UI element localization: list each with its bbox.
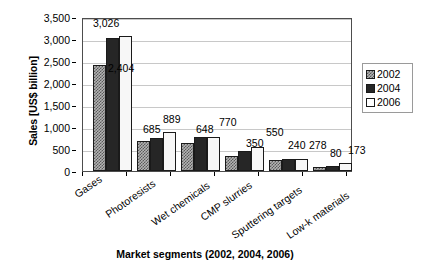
y-tick-label-1000: 1,000	[44, 123, 70, 133]
bar-low-k-materials-2004[interactable]	[326, 166, 339, 171]
bar-group-wet-chemicals	[179, 19, 223, 171]
data-label-photoresists-2006: 889	[163, 114, 181, 125]
y-tick-mark-1500	[72, 106, 76, 107]
bar-cmp-slurries-2002[interactable]	[225, 156, 238, 171]
x-axis-title: Market segments (2002, 2004, 2006)	[40, 248, 370, 260]
y-tick-label-2500: 2,500	[44, 57, 70, 67]
bar-group-photoresists	[135, 19, 179, 171]
data-label-low-k-materials-2006: 173	[348, 145, 366, 156]
y-tick-label-3000: 3,000	[44, 35, 70, 45]
data-label-photoresists-2002: 685	[143, 124, 161, 135]
data-label-low-k-materials-2002: 80	[330, 148, 342, 159]
y-tick-label-2000: 2,000	[44, 79, 70, 89]
data-label-gases-2004: 3,026	[93, 18, 119, 29]
bar-wet-chemicals-2004[interactable]	[194, 137, 207, 171]
y-tick-label-0: 0	[64, 167, 70, 177]
x-label-photoresists: Photoresists	[104, 178, 158, 220]
bar-gases-2002[interactable]	[93, 65, 106, 171]
data-label-gases-2002: 2,404	[108, 63, 134, 74]
legend: 2002 2004 2006	[362, 63, 413, 113]
legend-swatch-2002-icon	[366, 70, 375, 79]
x-tick-mark-4	[258, 172, 259, 176]
x-tick-mark-6	[346, 172, 347, 176]
data-label-cmp-slurries-2006: 550	[266, 127, 284, 138]
data-label-sputtering-targets-2002: 240	[288, 140, 306, 151]
bar-sputtering-targets-2006[interactable]	[295, 159, 308, 171]
x-tick-mark-3	[214, 172, 215, 176]
x-tick-mark-5	[302, 172, 303, 176]
bar-wet-chemicals-2006[interactable]	[207, 137, 220, 171]
y-tick-mark-2000	[72, 84, 76, 85]
y-tick-label-500: 500	[52, 145, 70, 155]
y-tick-mark-3000	[72, 40, 76, 41]
bar-group-gases	[91, 19, 135, 171]
x-tick-mark-1	[126, 172, 127, 176]
y-axis-ticks: 0 500 1,000 1,500 2,000 2,500 3,000 3,50…	[18, 18, 76, 172]
y-tick-mark-3500	[72, 18, 76, 19]
y-tick-mark-1000	[72, 128, 76, 129]
legend-label-2002: 2002	[377, 69, 400, 80]
bar-photoresists-2002[interactable]	[137, 141, 150, 171]
bar-photoresists-2006[interactable]	[163, 132, 176, 171]
legend-label-2006: 2006	[377, 97, 400, 108]
legend-label-2004: 2004	[377, 83, 400, 94]
bar-sputtering-targets-2004[interactable]	[282, 159, 295, 171]
bar-low-k-materials-2002[interactable]	[313, 167, 326, 171]
bar-wet-chemicals-2002[interactable]	[181, 143, 194, 172]
bar-low-k-materials-2006[interactable]	[339, 163, 352, 171]
y-tick-mark-2500	[72, 62, 76, 63]
x-tick-mark-2	[170, 172, 171, 176]
data-label-sputtering-targets-2006: 278	[309, 140, 327, 151]
bar-cmp-slurries-2004[interactable]	[238, 151, 251, 171]
x-tick-mark-0	[82, 172, 83, 176]
y-tick-mark-500	[72, 150, 76, 151]
data-label-wet-chemicals-2002: 648	[196, 124, 214, 135]
bar-photoresists-2004[interactable]	[150, 138, 163, 171]
legend-swatch-2004-icon	[366, 84, 375, 93]
legend-item-2002[interactable]: 2002	[366, 67, 409, 81]
y-tick-label-1500: 1,500	[44, 101, 70, 111]
y-tick-mark-0	[72, 172, 76, 173]
x-label-gases: Gases	[73, 174, 104, 200]
bar-chart: Sales [US$ billion] 0 500 1,000 1,500 2,…	[0, 0, 424, 275]
data-label-wet-chemicals-2006: 770	[219, 117, 237, 128]
data-label-cmp-slurries-2002: 350	[246, 138, 264, 149]
legend-item-2004[interactable]: 2004	[366, 81, 409, 95]
bar-gases-2004[interactable]	[106, 38, 119, 171]
bar-sputtering-targets-2002[interactable]	[269, 160, 282, 171]
legend-swatch-2006-icon	[366, 98, 375, 107]
bar-gases-2006[interactable]	[119, 36, 132, 171]
y-tick-label-3500: 3,500	[44, 13, 70, 23]
legend-item-2006[interactable]: 2006	[366, 95, 409, 109]
bar-cmp-slurries-2006[interactable]	[251, 147, 264, 171]
